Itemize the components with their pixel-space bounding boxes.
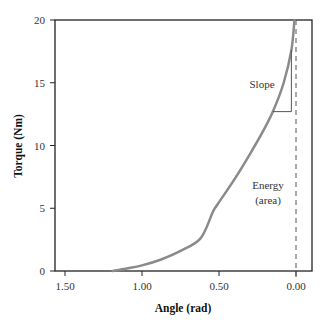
chart: 05101520 1.501.000.500.00 Slope Energy (…	[0, 0, 325, 327]
energy-area-annotation: (area)	[255, 194, 281, 207]
x-tick-label: 0.50	[209, 280, 229, 292]
slope-annotation: Slope	[249, 78, 274, 90]
y-tick-label: 0	[40, 265, 46, 277]
x-tick-label: 1.00	[132, 280, 152, 292]
y-tick-label: 15	[34, 77, 46, 89]
plot-frame	[55, 20, 312, 271]
x-axis-title: Angle (rad)	[155, 302, 212, 315]
y-tick-label: 10	[34, 140, 46, 152]
y-tick-label: 5	[40, 202, 46, 214]
x-tick-label: 0.00	[286, 280, 306, 292]
energy-annotation: Energy	[252, 179, 284, 191]
torque-angle-curve	[113, 20, 295, 271]
y-tick-label: 20	[34, 14, 46, 26]
y-axis-ticks: 05101520	[34, 14, 55, 277]
x-tick-label: 1.50	[55, 280, 75, 292]
y-axis-title: Torque (Nm)	[12, 114, 25, 178]
x-axis-ticks: 1.501.000.500.00	[55, 271, 306, 292]
